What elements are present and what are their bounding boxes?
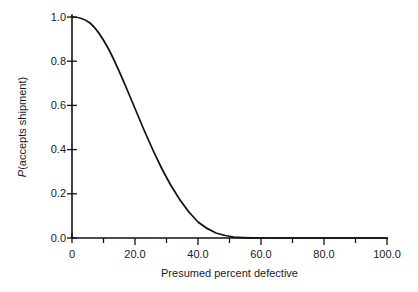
y-tick-label: 0.2 <box>51 187 66 199</box>
y-tick-label: 0.0 <box>51 232 66 244</box>
x-tick-label: 40.0 <box>187 248 208 260</box>
x-tick-label: 60.0 <box>250 248 271 260</box>
y-tick-label: 0.4 <box>51 143 66 155</box>
y-tick-label-group: 1.0 0.8 0.6 0.4 0.2 0.0 <box>51 11 66 244</box>
chart-canvas: 1.0 0.8 0.6 0.4 0.2 0.0 0 20.0 40.0 60.0… <box>0 0 418 292</box>
operating-characteristic-chart: 1.0 0.8 0.6 0.4 0.2 0.0 0 20.0 40.0 60.0… <box>0 0 418 292</box>
x-tick-label: 20.0 <box>124 248 145 260</box>
x-tick-label: 80.0 <box>313 248 334 260</box>
y-tick-label: 1.0 <box>51 11 66 23</box>
y-axis-title-text: (accepts shipment) <box>16 77 28 170</box>
y-axis-title-group: P(accepts shipment) <box>16 77 28 177</box>
x-tick-label-group: 0 20.0 40.0 60.0 80.0 100.0 <box>69 248 401 260</box>
x-tick-label: 0 <box>69 248 75 260</box>
x-axis-title: Presumed percent defective <box>161 267 298 279</box>
x-tick-label: 100.0 <box>373 248 401 260</box>
y-tick-label: 0.6 <box>51 99 66 111</box>
y-axis-title: P(accepts shipment) <box>16 77 28 177</box>
oc-curve-path <box>72 17 387 238</box>
tick-mark-group <box>67 17 387 245</box>
y-tick-label: 0.8 <box>51 55 66 67</box>
